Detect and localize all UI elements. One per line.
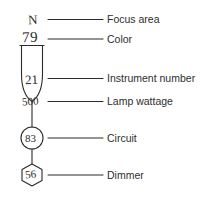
symbol-value-dimmer: 56 <box>24 167 36 180</box>
symbol-value-focus-area: N <box>28 12 38 28</box>
callout-label-focus-area: Focus area <box>107 14 160 25</box>
callout-label-instrument-number: Instrument number <box>107 73 195 84</box>
callout-label-lamp-wattage: Lamp wattage <box>107 96 173 107</box>
symbol-value-instrument-number: 21 <box>25 72 39 89</box>
symbol-value-circuit: 83 <box>25 132 36 144</box>
diagram-page: N 79 21 500 83 56 Focus area Color Instr… <box>0 0 201 197</box>
callout-label-color: Color <box>107 34 132 45</box>
symbol-value-color: 79 <box>22 29 39 47</box>
callout-label-dimmer: Dimmer <box>107 170 144 181</box>
callout-label-circuit: Circuit <box>107 133 137 144</box>
symbol-value-lamp-wattage: 500 <box>22 94 39 107</box>
